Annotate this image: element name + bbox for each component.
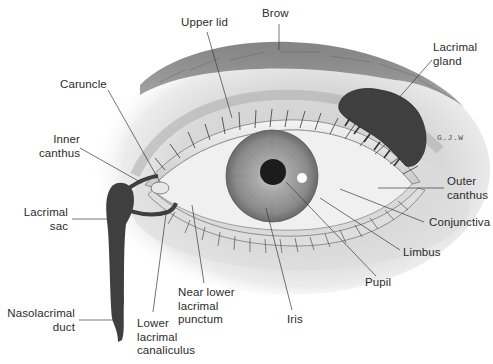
label-lacrimal-gland: Lacrimal gland: [433, 41, 477, 68]
label-conjunctiva: Conjunctiva: [429, 216, 490, 230]
label-brow: Brow: [262, 7, 289, 21]
caruncle-shape: [151, 182, 169, 194]
label-caruncle: Caruncle: [60, 78, 107, 92]
label-outer-canthus: Outer canthus: [447, 175, 488, 202]
label-upper-lid: Upper lid: [181, 16, 228, 30]
label-inner-canthus: Inner canthus: [38, 133, 80, 160]
artist-signature: G.J.W: [437, 133, 464, 142]
label-limbus: Limbus: [403, 246, 441, 260]
lacrimal-sac-shape: [106, 183, 134, 342]
corneal-highlight: [297, 173, 307, 183]
label-lacrimal-sac: Lacrimal sac: [20, 206, 68, 233]
label-pupil: Pupil: [365, 276, 391, 290]
eye-anatomy-diagram: Brow Upper lid Lacrimal gland Caruncle I…: [0, 0, 493, 364]
label-nasolacrimal-duct: Nasolacrimal duct: [2, 307, 75, 334]
pupil-shape: [260, 159, 286, 185]
label-lower-lacrimal-canaliculus: Lower lacrimal canaliculus: [137, 317, 195, 358]
label-iris: Iris: [287, 313, 303, 327]
